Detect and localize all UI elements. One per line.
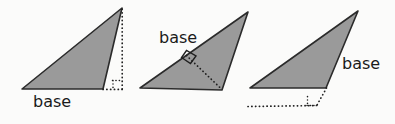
triangle-3-altitude: [317, 88, 327, 106]
triangle-1-shape: [22, 8, 122, 89]
triangle-2-base-label: base: [159, 28, 197, 47]
triangle-2-group: [140, 12, 248, 90]
geometry-figure: base base base: [0, 0, 395, 124]
triangle-2-shape: [140, 12, 248, 90]
triangle-3-base-label: base: [342, 54, 380, 73]
triangle-3-right-angle-icon: [307, 97, 317, 106]
triangle-3-shape: [250, 11, 358, 88]
triangle-1-base-label: base: [33, 92, 71, 111]
triangle-1-group: [22, 8, 123, 90]
triangle-1-right-angle-icon: [113, 81, 123, 90]
